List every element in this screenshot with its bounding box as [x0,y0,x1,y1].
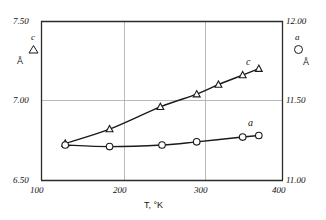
data-point-a-5 [255,132,262,139]
x-axis-tick-100: 100 [30,186,44,195]
y-axis-right-tick-1100: 11.00 [286,176,306,185]
data-point-a-1 [106,143,113,150]
legend-right-symbol-a: a [295,33,300,42]
data-point-a-0 [62,142,69,149]
x-axis-tick-200: 200 [113,186,127,195]
data-point-c-6 [255,65,262,71]
y-axis-left-tick-750: 7.50 [13,17,29,26]
legend-left-triangle-marker [28,44,39,54]
legend-left-unit-angstrom: Å [17,57,23,66]
y-axis-right-tick-1150: 11.50 [286,96,306,105]
curve-c-markers [62,65,262,146]
x-axis-tick-400: 400 [272,186,286,195]
curve-label-a: a [248,118,253,128]
y-axis-left-tick-650: 6.50 [13,176,29,185]
x-axis-title: T, °K [144,201,163,210]
legend-right-unit-angstrom: Å [303,58,309,67]
data-point-a-3 [193,139,200,146]
legend-right-circle-marker [293,44,304,55]
data-series-group [62,65,262,150]
x-axis-tick-300: 300 [194,186,208,195]
legend-left-symbol-c: c [31,33,35,42]
data-point-a-2 [159,142,166,149]
curve-label-c: c [246,57,250,67]
data-point-a-4 [239,134,246,141]
chart-figure: 7.50 7.00 6.50 12.00 11.50 11.00 100 200… [0,0,326,220]
gridlines-group [41,21,283,180]
y-axis-right-tick-1200: 12.00 [286,17,306,26]
y-axis-left-tick-700: 7.00 [13,96,29,105]
